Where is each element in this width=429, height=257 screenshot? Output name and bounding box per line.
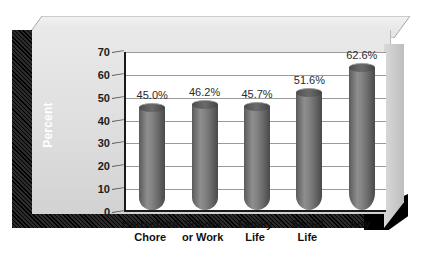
y-axis-tick-mark: [112, 119, 124, 122]
y-axis-tick-label: 50: [76, 93, 110, 104]
bar-value-label: 62.6%: [332, 49, 392, 61]
bar-cylinder-body: [349, 67, 375, 210]
y-axis-tick-mark: [112, 50, 124, 53]
y-axis-tick-label: 30: [76, 138, 110, 149]
bar-value-label: 46.2%: [175, 86, 235, 98]
y-axis-tick-mark: [112, 164, 124, 167]
y-axis-tick-label: 10: [76, 184, 110, 195]
y-axis-title: Percent: [41, 65, 55, 185]
bar-cylinder-body: [244, 106, 270, 210]
plot-right-wall-3d: [384, 44, 404, 228]
plot-area: 45.0%46.2%45.7%51.6%62.6%: [124, 52, 386, 212]
y-axis-tick-label: 20: [76, 161, 110, 172]
bar-value-label: 51.6%: [279, 74, 339, 86]
bar-value-label: 45.7%: [227, 88, 287, 100]
bar-cylinder: [244, 106, 270, 210]
chart-frame: Percent 010203040506070 45.0%46.2%45.7%5…: [12, 16, 410, 244]
bar-cylinder: [192, 104, 218, 210]
bar-cylinder-body: [139, 107, 165, 210]
chart-panel: Percent 010203040506070 45.0%46.2%45.7%5…: [32, 30, 391, 214]
gridline: [126, 75, 386, 76]
chart-figure: Percent 010203040506070 45.0%46.2%45.7%5…: [0, 0, 429, 257]
y-axis-tick-label: 60: [76, 70, 110, 81]
x-axis-category-label-line: Life: [271, 231, 343, 244]
y-axis-tick-mark: [112, 187, 124, 190]
y-axis-tick-label: 70: [76, 47, 110, 58]
bar-cylinder-body: [296, 92, 322, 210]
y-axis-tick-label: 0: [76, 207, 110, 218]
bar-cylinder: [296, 92, 322, 210]
bar-value-label: 45.0%: [122, 89, 182, 101]
y-axis-tick-mark: [112, 73, 124, 76]
bar-cylinder: [349, 67, 375, 210]
y-axis-tick-mark: [112, 142, 124, 145]
x-axis-category-label-line: Any: [324, 218, 396, 231]
bar-cylinder-top: [349, 63, 375, 72]
bar-cylinder: [139, 107, 165, 210]
y-axis-tick-label: 40: [76, 116, 110, 127]
x-axis-category-label: Any: [324, 218, 396, 231]
bar-cylinder-top: [244, 102, 270, 111]
bar-cylinder-body: [192, 104, 218, 210]
y-axis-tick-mark: [112, 210, 124, 213]
